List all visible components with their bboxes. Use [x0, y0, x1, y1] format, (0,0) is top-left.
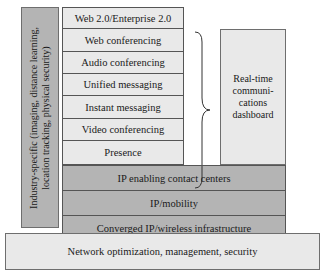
stack-item-presence: Presence	[63, 141, 183, 164]
network-base-layer: Network optimization, management, securi…	[5, 233, 320, 270]
stack-item-instant-messaging: Instant messaging	[63, 96, 183, 119]
stack-item-label: Video conferencing	[82, 124, 164, 135]
application-stack: Web 2.0/Enterprise 2.0 Web conferencing …	[62, 7, 184, 165]
stack-item-label: Presence	[104, 147, 141, 158]
industry-specific-label: Industry-specific (imaging, distance lea…	[28, 11, 52, 225]
stack-item-unified-messaging: Unified messaging	[63, 74, 183, 96]
stack-item-label: Instant messaging	[85, 102, 161, 113]
stack-item-label: Unified messaging	[83, 79, 162, 90]
realtime-dashboard-box: Real-time communi- cations dashboard	[220, 29, 286, 165]
stack-item-video-conferencing: Video conferencing	[63, 119, 183, 141]
layer-label: IP enabling contact centers	[117, 173, 230, 184]
industry-specific-column: Industry-specific (imaging, distance lea…	[21, 7, 59, 228]
layer-label: IP/mobility	[150, 198, 198, 209]
network-base-label: Network optimization, management, securi…	[68, 246, 258, 257]
stack-item-label: Audio conferencing	[81, 57, 165, 68]
realtime-dashboard-label: Real-time communi- cations dashboard	[228, 73, 278, 121]
stack-item-web20: Web 2.0/Enterprise 2.0	[63, 8, 183, 29]
layer-ip-mobility: IP/mobility	[62, 191, 286, 216]
stack-item-audio-conferencing: Audio conferencing	[63, 52, 183, 74]
layer-label: Converged IP/wireless infrastructure	[97, 223, 251, 234]
stack-item-label: Web conferencing	[85, 35, 161, 46]
stack-item-web-conferencing: Web conferencing	[63, 29, 183, 52]
stack-item-label: Web 2.0/Enterprise 2.0	[75, 13, 172, 24]
layer-ip-contact-centers: IP enabling contact centers	[62, 165, 286, 191]
